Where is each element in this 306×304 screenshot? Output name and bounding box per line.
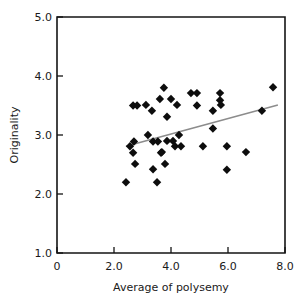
x-tick-marks (57, 247, 285, 253)
data-point (269, 83, 277, 91)
scatter-plot-figure: 5.0 4.0 3.0 2.0 1.0 0 2.0 4.0 6.0 8.0 Av… (0, 0, 306, 304)
data-point (148, 107, 156, 115)
plot-frame (57, 17, 285, 253)
data-point (163, 113, 171, 121)
data-point (131, 160, 139, 168)
y-tick-label: 5.0 (35, 11, 53, 24)
x-tick-label: 6.0 (219, 260, 237, 273)
data-point (122, 178, 130, 186)
data-point (160, 84, 168, 92)
data-point (193, 89, 201, 97)
y-tick-label: 3.0 (35, 129, 53, 142)
x-axis-title: Average of polysemy (113, 281, 229, 294)
y-tick-marks (57, 17, 63, 253)
data-point (153, 178, 161, 186)
x-tick-label: 2.0 (105, 260, 123, 273)
x-tick-label: 8.0 (276, 260, 294, 273)
y-tick-label: 2.0 (35, 188, 53, 201)
data-point (242, 148, 250, 156)
data-point (223, 142, 231, 150)
data-point (144, 131, 152, 139)
data-point-group (122, 83, 277, 186)
x-tick-label: 0 (54, 260, 61, 273)
y-tick-label: 4.0 (35, 70, 53, 83)
plot-canvas: 5.0 4.0 3.0 2.0 1.0 0 2.0 4.0 6.0 8.0 Av… (0, 0, 306, 304)
data-point (199, 142, 207, 150)
data-point (209, 124, 217, 132)
data-point (149, 165, 157, 173)
data-point (156, 95, 164, 103)
data-point (223, 166, 231, 174)
data-point (158, 148, 166, 156)
data-point (209, 107, 217, 115)
y-tick-label: 1.0 (35, 247, 53, 260)
y-axis-tick-labels: 5.0 4.0 3.0 2.0 1.0 (35, 11, 53, 260)
data-point (167, 95, 175, 103)
data-point (193, 101, 201, 109)
y-axis-title: Originality (8, 106, 21, 163)
data-point (173, 101, 181, 109)
x-axis-tick-labels: 0 2.0 4.0 6.0 8.0 (54, 260, 294, 273)
data-point (142, 101, 150, 109)
x-tick-label: 4.0 (162, 260, 180, 273)
data-point (161, 160, 169, 168)
data-point (177, 142, 185, 150)
